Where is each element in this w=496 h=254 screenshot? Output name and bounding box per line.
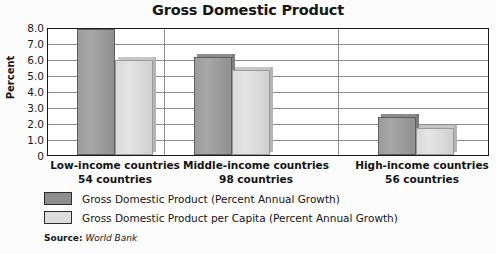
plot-area xyxy=(47,28,489,156)
y-axis-tick-labels: 8.0 7.0 6.0 5.0 4.0 3.0 2.0 1.0 0 xyxy=(14,22,44,162)
bar-face xyxy=(232,70,270,155)
bar-edge xyxy=(454,125,457,152)
x-group-count: 56 countries xyxy=(342,173,496,187)
x-group-name: High-income countries xyxy=(342,159,496,173)
y-tick-label: 3.0 xyxy=(14,103,44,113)
chart-legend: Gross Domestic Product (Percent Annual G… xyxy=(44,189,398,227)
bar-gdp-middle-income xyxy=(194,57,232,155)
group-separator xyxy=(338,29,339,155)
bar-face xyxy=(378,117,416,155)
bar-face xyxy=(194,57,232,155)
legend-label: Gross Domestic Product (Percent Annual G… xyxy=(82,193,340,205)
x-axis-labels: Low-income countries 54 countries Middle… xyxy=(47,159,489,189)
y-tick-label: 5.0 xyxy=(14,71,44,81)
y-tick-label: 1.0 xyxy=(14,135,44,145)
bar-gdp-per-capita-high-income xyxy=(416,128,454,155)
legend-label: Gross Domestic Product per Capita (Perce… xyxy=(82,212,398,224)
bar-edge xyxy=(153,57,156,152)
bar-gdp-high-income xyxy=(378,117,416,155)
y-tick-label: 6.0 xyxy=(14,55,44,65)
bar-gdp-per-capita-low-income xyxy=(115,60,153,155)
legend-item-gdp-per-capita: Gross Domestic Product per Capita (Perce… xyxy=(44,208,398,227)
bar-gdp-low-income xyxy=(77,29,115,155)
y-tick-label: 4.0 xyxy=(14,87,44,97)
y-tick-label: 2.0 xyxy=(14,119,44,129)
source-note: Source: World Bank xyxy=(44,233,137,243)
bar-face xyxy=(115,60,153,155)
chart-figure: Gross Domestic Product Percent 8.0 7.0 6… xyxy=(0,0,496,254)
legend-swatch-icon xyxy=(44,211,72,224)
source-label: Source: xyxy=(44,233,83,243)
y-tick-label: 8.0 xyxy=(14,23,44,33)
x-group-name: Middle-income countries xyxy=(170,159,342,173)
bar-face xyxy=(416,128,454,155)
source-value: World Bank xyxy=(85,233,137,243)
x-group-label-high-income: High-income countries 56 countries xyxy=(342,159,496,186)
legend-swatch-icon xyxy=(44,192,72,205)
legend-item-gdp: Gross Domestic Product (Percent Annual G… xyxy=(44,189,398,208)
bar-edge xyxy=(270,67,273,152)
chart-title: Gross Domestic Product xyxy=(0,2,496,18)
x-group-count: 98 countries xyxy=(170,173,342,187)
x-group-label-middle-income: Middle-income countries 98 countries xyxy=(170,159,342,186)
bar-face xyxy=(77,29,115,155)
group-separator xyxy=(164,29,165,155)
y-tick-label: 7.0 xyxy=(14,39,44,49)
bar-gdp-per-capita-middle-income xyxy=(232,70,270,155)
